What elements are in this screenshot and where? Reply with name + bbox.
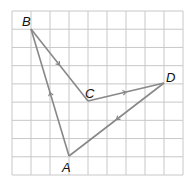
vertex-labels: A B C D (22, 14, 175, 175)
label-d: D (166, 70, 175, 85)
label-b: B (22, 14, 31, 29)
label-c: C (85, 86, 95, 101)
segments (31, 29, 164, 156)
label-a: A (61, 160, 71, 175)
quadrilateral-diagram: A B C D (0, 0, 189, 183)
grid (12, 11, 183, 175)
